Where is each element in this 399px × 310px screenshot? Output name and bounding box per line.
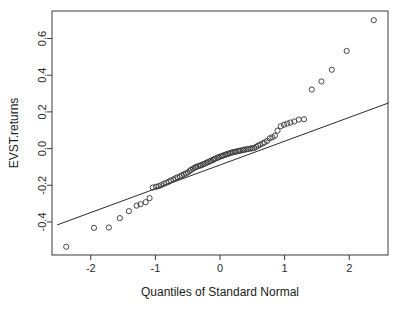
y-tick-label: 0.2 — [36, 104, 48, 119]
x-tick-label: 2 — [346, 262, 352, 274]
qq-plot-canvas: -2-1012 -0.4-0.20.00.20.40.6 Quantiles o… — [0, 0, 399, 310]
y-tick-label: 0.6 — [36, 31, 48, 46]
y-tick-label: 0.4 — [36, 68, 48, 83]
x-tick-label: -2 — [86, 262, 96, 274]
figure-background — [0, 0, 399, 310]
x-tick-label: 0 — [217, 262, 223, 274]
y-axis-title: EVST.returns — [7, 98, 21, 169]
y-tick-label: 0.0 — [36, 141, 48, 156]
qq-plot-figure: -2-1012 -0.4-0.20.00.20.40.6 Quantiles o… — [0, 0, 399, 310]
x-axis-title: Quantiles of Standard Normal — [141, 285, 299, 299]
x-tick-label: -1 — [150, 262, 160, 274]
x-tick-label: 1 — [282, 262, 288, 274]
y-tick-label: -0.4 — [36, 212, 48, 231]
y-tick-label: -0.2 — [36, 176, 48, 195]
